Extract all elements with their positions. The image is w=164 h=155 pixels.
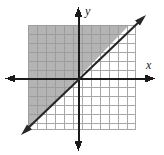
graph-canvas [0, 0, 164, 155]
y-axis-top-arrowhead [75, 7, 83, 17]
x-axis-label: x [146, 59, 151, 71]
y-axis-bottom-arrowhead [75, 141, 83, 151]
x-axis-left-arrowhead [5, 75, 15, 83]
y-axis-label: y [85, 5, 90, 17]
x-axis-right-arrowhead [145, 75, 155, 83]
coordinate-plane-inequality-graph: y x [0, 0, 164, 155]
